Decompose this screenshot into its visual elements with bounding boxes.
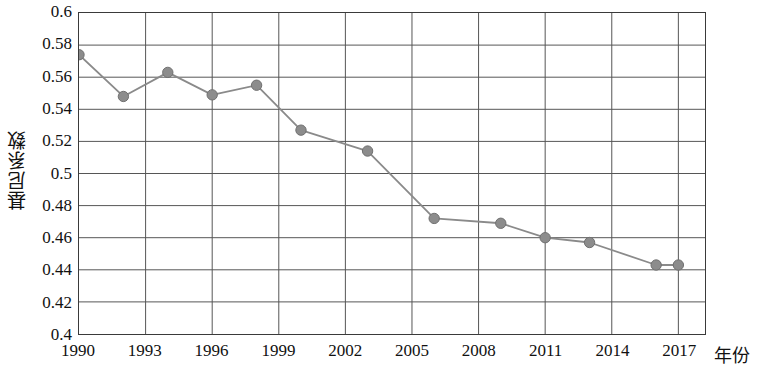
series-line-gini xyxy=(79,55,678,265)
data-point-marker xyxy=(673,260,683,270)
y-axis-tick-label: 0.42 xyxy=(42,293,72,313)
data-point-marker xyxy=(118,91,128,101)
data-point-marker xyxy=(362,146,372,156)
y-axis-tick-label: 0.44 xyxy=(42,260,72,280)
x-axis-tick-label: 2014 xyxy=(595,341,629,361)
x-axis-title-label: 年份 xyxy=(714,341,750,367)
x-axis-tick-label: 2008 xyxy=(462,341,496,361)
y-axis-tick-label: 0.48 xyxy=(42,196,72,216)
series-layer xyxy=(79,13,705,334)
data-point-marker xyxy=(296,125,306,135)
y-axis-tick-label: 0.5 xyxy=(51,164,72,184)
y-axis-tick-label: 0.52 xyxy=(42,131,72,151)
x-axis-tick-label: 1990 xyxy=(61,341,95,361)
data-point-marker xyxy=(429,213,439,223)
data-point-marker xyxy=(163,67,173,77)
y-axis-tick-labels: 0.60.580.560.540.520.50.480.460.440.420.… xyxy=(26,0,76,345)
gini-coefficient-line-chart: 基尼系数 0.60.580.560.540.520.50.480.460.440… xyxy=(0,0,758,369)
y-axis-tick-label: 0.6 xyxy=(51,2,72,22)
data-point-marker xyxy=(651,260,661,270)
data-point-marker xyxy=(584,237,594,247)
x-axis-tick-label: 1993 xyxy=(128,341,162,361)
y-axis-tick-label: 0.58 xyxy=(42,34,72,54)
x-axis-tick-label: 1999 xyxy=(261,341,295,361)
plot-area xyxy=(78,12,706,335)
y-axis-tick-label: 0.56 xyxy=(42,67,72,87)
x-axis-tick-label: 1996 xyxy=(195,341,229,361)
x-axis-tick-label: 2005 xyxy=(395,341,429,361)
data-point-marker xyxy=(207,90,217,100)
x-axis-tick-label: 2011 xyxy=(529,341,562,361)
x-axis-tick-labels: 1990199319961999200220052008201120142017 xyxy=(0,341,758,369)
data-point-marker xyxy=(496,218,506,228)
x-axis-tick-label: 2002 xyxy=(328,341,362,361)
x-axis-tick-label: 2017 xyxy=(662,341,696,361)
data-point-marker xyxy=(540,233,550,243)
y-axis-tick-label: 0.46 xyxy=(42,228,72,248)
y-axis-tick-label: 0.54 xyxy=(42,99,72,119)
data-point-marker xyxy=(251,80,261,90)
